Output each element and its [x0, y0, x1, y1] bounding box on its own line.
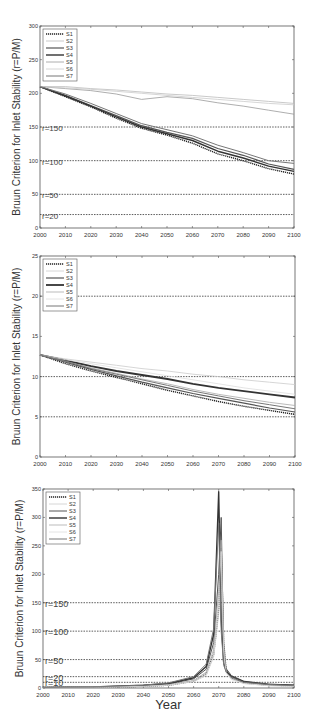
legend-label-s5: S5 — [66, 289, 73, 295]
x-tick-label: 2050 — [160, 232, 174, 238]
x-tick-label: 2100 — [287, 692, 301, 698]
y-tick-label: 300 — [32, 514, 41, 520]
x-tick-label: 2050 — [161, 461, 175, 467]
chart-top-bruun-criterion: r=150r=100r=50r=202000201020202030204020… — [0, 0, 316, 245]
y-tick-label: 0 — [35, 454, 38, 460]
legend-label-s2: S2 — [66, 268, 73, 274]
x-tick-label: 2010 — [59, 461, 73, 467]
legend-label-s7: S7 — [66, 73, 73, 79]
legend-label-s6: S6 — [66, 296, 73, 302]
legend-label-s4: S4 — [66, 282, 73, 288]
x-tick-label: 2040 — [135, 461, 149, 467]
x-axis-label: Year — [155, 697, 182, 712]
x-tick-label: 2080 — [237, 692, 251, 698]
y-tick-label: 250 — [29, 57, 38, 63]
plot-area — [43, 489, 294, 688]
x-tick-label: 2000 — [33, 461, 47, 467]
reference-line-label: r=100 — [42, 158, 63, 167]
x-tick-label: 2060 — [186, 232, 200, 238]
legend-label-s1: S1 — [66, 31, 73, 37]
legend-label-s5: S5 — [66, 59, 73, 65]
y-tick-label: 250 — [32, 543, 41, 549]
reference-line-label: r=50 — [42, 191, 59, 200]
legend: S1S2S3S4S5S6S7 — [43, 259, 77, 311]
plot-area — [40, 256, 295, 457]
x-tick-label: 2080 — [237, 232, 251, 238]
legend: S1S2S3S4S5S6S7 — [46, 492, 80, 544]
y-tick-label: 50 — [35, 657, 41, 663]
legend-label-s3: S3 — [69, 508, 76, 514]
y-tick-label: 50 — [32, 191, 38, 197]
legend-label-s7: S7 — [66, 303, 73, 309]
y-tick-label: 150 — [29, 124, 38, 130]
reference-line-label: r=20 — [42, 212, 59, 221]
legend-label-s2: S2 — [69, 501, 76, 507]
x-tick-label: 2090 — [262, 232, 276, 238]
legend-label-s3: S3 — [66, 275, 73, 281]
legend-label-s6: S6 — [69, 529, 76, 535]
legend-label-s2: S2 — [66, 38, 73, 44]
legend-label-s6: S6 — [66, 66, 73, 72]
reference-line-label: r=100 — [45, 627, 68, 637]
x-tick-label: 2040 — [135, 232, 149, 238]
y-tick-label: 200 — [29, 90, 38, 96]
legend-label-s7: S7 — [69, 536, 76, 542]
y-tick-label: 10 — [32, 374, 38, 380]
chart-bottom-bruun-criterion: r=150r=100r=50r=20r=10200020102020203020… — [0, 480, 316, 724]
x-tick-label: 2100 — [287, 232, 301, 238]
y-tick-label: 200 — [32, 571, 41, 577]
y-tick-label: 20 — [32, 293, 38, 299]
x-tick-label: 2040 — [137, 692, 151, 698]
y-tick-label: 5 — [35, 414, 38, 420]
x-tick-label: 2060 — [186, 461, 200, 467]
y-tick-label: 25 — [32, 253, 38, 259]
x-tick-label: 2010 — [59, 232, 73, 238]
legend-label-s4: S4 — [66, 52, 73, 58]
y-tick-label: 100 — [32, 628, 41, 634]
y-axis-label: Bruun Criterion for Inlet Stability (r=P… — [14, 500, 25, 678]
reference-line-label: r=50 — [45, 656, 63, 666]
x-tick-label: 2010 — [61, 692, 75, 698]
x-tick-label: 2030 — [112, 692, 126, 698]
x-tick-label: 2000 — [33, 232, 47, 238]
legend-label-s4: S4 — [69, 515, 76, 521]
x-tick-label: 2030 — [110, 461, 124, 467]
y-tick-label: 100 — [29, 158, 38, 164]
legend-label-s5: S5 — [69, 522, 76, 528]
x-tick-label: 2070 — [212, 692, 226, 698]
y-tick-label: 0 — [35, 225, 38, 231]
x-tick-label: 2070 — [212, 461, 226, 467]
x-tick-label: 2100 — [288, 461, 302, 467]
y-tick-label: 0 — [38, 685, 41, 691]
y-tick-label: 15 — [32, 333, 38, 339]
x-tick-label: 2060 — [187, 692, 201, 698]
x-tick-label: 2020 — [84, 461, 98, 467]
y-axis-label: Bruun Criterion for Inlet Stability (r=P… — [11, 38, 22, 216]
reference-line-label: r=150 — [42, 124, 63, 133]
x-tick-label: 2030 — [110, 232, 124, 238]
x-tick-label: 2020 — [84, 232, 98, 238]
legend: S1S2S3S4S5S6S7 — [43, 29, 77, 81]
x-tick-label: 2090 — [262, 692, 276, 698]
x-tick-label: 2090 — [263, 461, 277, 467]
x-tick-label: 2070 — [211, 232, 225, 238]
y-axis-label: Bruun Criterion for Inlet Stability (r=P… — [11, 268, 22, 446]
y-tick-label: 350 — [32, 486, 41, 492]
x-tick-label: 2020 — [87, 692, 101, 698]
legend-label-s3: S3 — [66, 45, 73, 51]
legend-label-s1: S1 — [69, 494, 76, 500]
chart-middle-bruun-criterion: 2000201020202030204020502060207020802090… — [0, 245, 316, 480]
y-tick-label: 300 — [29, 23, 38, 29]
reference-line-label: r=150 — [45, 599, 68, 609]
legend-label-s1: S1 — [66, 261, 73, 267]
x-tick-label: 2080 — [237, 461, 251, 467]
y-tick-label: 150 — [32, 600, 41, 606]
x-tick-label: 2000 — [36, 692, 50, 698]
